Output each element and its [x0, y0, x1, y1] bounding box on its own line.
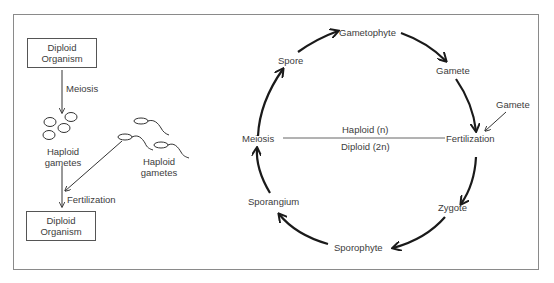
cycle-arrow-gametophyte-to-gamete — [401, 33, 446, 61]
top-box-line2: Organism — [41, 53, 82, 64]
haploid-gametes-right-line1: Haploid — [134, 156, 184, 167]
divider-diploid-label: Diploid (2n) — [341, 141, 390, 152]
bottom-box-line1: Diploid — [46, 215, 75, 226]
node-gametophyte: Gametophyte — [339, 27, 396, 38]
diploid-organism-bottom-box: Diploid Organism — [26, 211, 96, 241]
haploid-gametes-left-line2: gametes — [38, 157, 88, 168]
divider-haploid-label: Haploid (n) — [342, 124, 388, 135]
diploid-organism-top-box: Diploid Organism — [27, 38, 97, 68]
cycle-arrow-sporangium-to-meiosis — [257, 148, 270, 193]
bottom-box-line2: Organism — [40, 226, 81, 237]
right-haploid-gametes-label: Haploid gametes — [134, 156, 184, 178]
haploid-gamete-circles-icon — [43, 113, 77, 140]
cycle-arrow-meiosis-to-spore — [258, 69, 283, 136]
top-box-line1: Diploid — [47, 42, 76, 53]
cycle-arrow-fertilization-to-zygote — [461, 157, 476, 204]
node-sporangium: Sporangium — [248, 196, 299, 207]
sperm-gametes-icon — [118, 118, 189, 158]
cycle-arrow-sporophyte-to-sporangium — [279, 214, 328, 244]
left-haploid-gametes-label: Haploid gametes — [38, 146, 88, 168]
cycle-arrow-zygote-to-sporophyte — [393, 217, 445, 248]
node-fertilization: Fertilization — [446, 133, 495, 144]
node-sporophyte: Sporophyte — [334, 242, 383, 253]
node-gamete-external: Gamete — [496, 99, 530, 110]
cycle-arrow-gamete-to-fertilization — [456, 79, 476, 131]
left-meiosis-label: Meiosis — [66, 83, 98, 94]
haploid-gametes-right-line2: gametes — [134, 167, 184, 178]
haploid-gametes-left-line1: Haploid — [38, 146, 88, 157]
cycle-arrow-spore-to-gametophyte — [298, 31, 338, 52]
left-fertilization-label: Fertilization — [67, 194, 116, 205]
node-zygote: Zygote — [438, 202, 467, 213]
node-gamete: Gamete — [436, 65, 470, 76]
external-gamete-arrow — [485, 112, 506, 131]
node-spore: Spore — [278, 55, 303, 66]
node-meiosis: Meiosis — [242, 133, 274, 144]
